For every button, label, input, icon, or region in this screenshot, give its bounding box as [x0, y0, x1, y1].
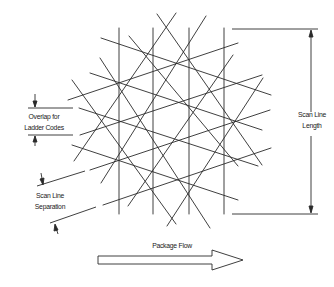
- diagonal-scan-line: [74, 13, 176, 161]
- diagonal-scan-line: [128, 55, 233, 206]
- arrow-up-icon: [54, 224, 58, 231]
- separation-label-line2: Separation: [25, 201, 76, 212]
- arrow-down-icon: [40, 178, 44, 185]
- arrow-down-icon: [309, 206, 313, 213]
- overlap-label-line2: Ladder Codes: [19, 122, 70, 133]
- package-flow-arrow-icon: [98, 250, 243, 270]
- length-label-line2: Length: [287, 120, 334, 131]
- shallow-scan-line: [72, 145, 238, 200]
- scan-line-separation-label: Scan Line Separation: [25, 190, 76, 212]
- scan-lines: [68, 13, 271, 228]
- arrow-up-icon: [33, 136, 37, 142]
- arrow-up-icon: [309, 30, 313, 37]
- shallow-scan-line: [103, 148, 271, 205]
- separation-label-line1: Scan Line: [25, 190, 76, 201]
- length-label-line1: Scan Line: [287, 109, 334, 120]
- package-flow-label: Package Flow: [138, 240, 206, 251]
- arrow-down-icon: [33, 101, 37, 107]
- overlap-label-line1: Overlap for: [19, 111, 70, 122]
- overlap-label: Overlap for Ladder Codes: [19, 111, 70, 133]
- shallow-scan-line: [101, 38, 271, 95]
- shallow-scan-line: [79, 108, 258, 166]
- scan-line-length-label: Scan Line Length: [287, 109, 334, 131]
- scan-pattern-diagram: Overlap for Ladder Codes Scan Line Lengt…: [0, 0, 334, 287]
